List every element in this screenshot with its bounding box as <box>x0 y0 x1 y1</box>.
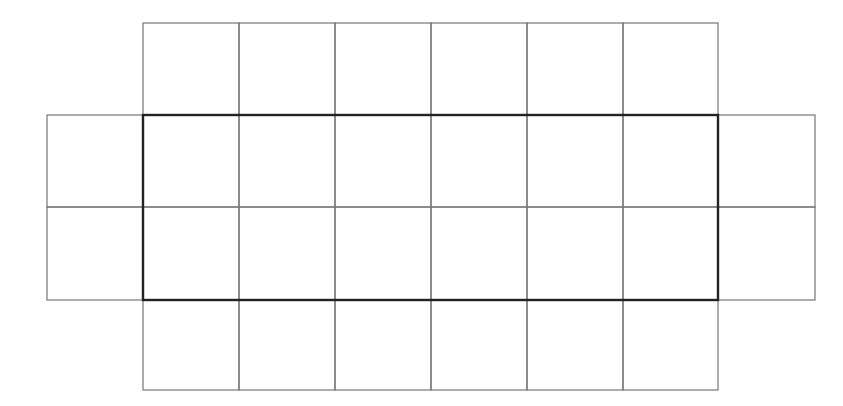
net-diagram <box>0 0 843 406</box>
grid-square <box>239 23 335 115</box>
grid-square <box>623 23 718 115</box>
grid-square <box>335 115 431 207</box>
grid-square <box>335 23 431 115</box>
grid-square <box>239 207 335 300</box>
grid-square <box>623 300 718 390</box>
grid-square <box>431 300 527 390</box>
grid-square <box>431 207 527 300</box>
grid-square <box>527 23 623 115</box>
grid-square <box>239 300 335 390</box>
left-flap-square <box>47 115 143 207</box>
grid-square <box>335 300 431 390</box>
grid-square <box>143 207 239 300</box>
grid-square <box>143 300 239 390</box>
grid-square <box>335 207 431 300</box>
grid-squares <box>47 23 815 390</box>
right-flap-square <box>718 115 815 207</box>
grid-square <box>623 115 718 207</box>
grid-square <box>431 23 527 115</box>
grid-square <box>431 115 527 207</box>
left-flap-square <box>47 207 143 300</box>
grid-square <box>527 300 623 390</box>
grid-square <box>143 115 239 207</box>
grid-square <box>239 115 335 207</box>
grid-square <box>527 115 623 207</box>
grid-square <box>527 207 623 300</box>
grid-square <box>623 207 718 300</box>
right-flap-square <box>718 207 815 300</box>
grid-square <box>143 23 239 115</box>
